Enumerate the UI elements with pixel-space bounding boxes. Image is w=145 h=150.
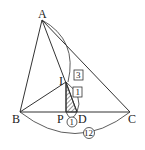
geometry-diagram: A B C I P D 3 1 1 12: [0, 0, 145, 150]
length-bc: 12: [84, 128, 93, 138]
triangle-abc: [20, 20, 130, 112]
side-ab: [20, 20, 42, 112]
side-ac: [42, 20, 130, 112]
arc-ai: [42, 20, 70, 82]
ratio-id: 1: [76, 87, 81, 97]
label-c: C: [128, 112, 136, 126]
label-d: D: [78, 112, 87, 126]
label-b: B: [12, 112, 20, 126]
label-i: I: [59, 74, 63, 88]
label-a: A: [38, 7, 47, 21]
ratio-ai: 3: [76, 70, 81, 80]
label-p: P: [57, 112, 64, 126]
length-pd: 1: [70, 117, 75, 127]
